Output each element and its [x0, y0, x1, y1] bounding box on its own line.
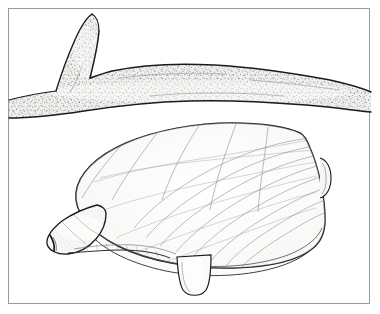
figure-root: Bivalve mollusc with extended siphon ben… — [0, 0, 380, 314]
muscular-foot — [177, 255, 211, 295]
umbo-knob — [320, 158, 331, 198]
illustration-canvas — [0, 0, 380, 314]
